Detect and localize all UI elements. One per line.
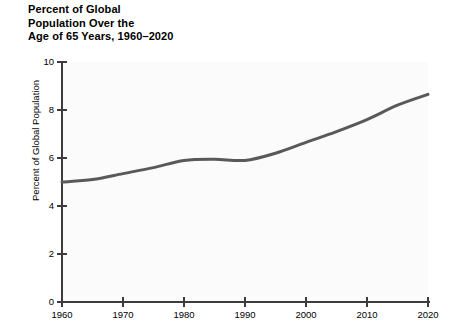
x-tick-2010 <box>366 297 368 307</box>
y-tick-6 <box>57 157 67 159</box>
x-tick-1970 <box>122 297 124 307</box>
y-tick-2 <box>57 253 67 255</box>
chart-title: Percent of Global Population Over the Ag… <box>28 3 258 44</box>
x-tick-1980 <box>183 297 185 307</box>
x-tick-label-1970: 1970 <box>103 309 143 320</box>
y-axis-title: Percent of Global Population <box>30 61 41 221</box>
y-tick-label-0: 0 <box>28 296 54 307</box>
x-tick-label-2010: 2010 <box>347 309 387 320</box>
x-tick-2020 <box>427 297 429 307</box>
y-tick-label-2: 2 <box>28 248 54 259</box>
x-tick-label-2020: 2020 <box>408 309 448 320</box>
x-tick-1990 <box>244 297 246 307</box>
y-tick-8 <box>57 109 67 111</box>
x-tick-label-2000: 2000 <box>286 309 326 320</box>
chart-figure: Percent of Global Population Over the Ag… <box>0 0 454 334</box>
x-tick-label-1990: 1990 <box>225 309 265 320</box>
x-tick-label-1980: 1980 <box>164 309 204 320</box>
y-axis-line <box>61 61 63 303</box>
x-tick-label-1960: 1960 <box>42 309 82 320</box>
x-tick-1960 <box>61 297 63 307</box>
x-tick-2000 <box>305 297 307 307</box>
y-tick-10 <box>57 61 67 63</box>
y-tick-4 <box>57 205 67 207</box>
plot-area <box>62 62 428 302</box>
